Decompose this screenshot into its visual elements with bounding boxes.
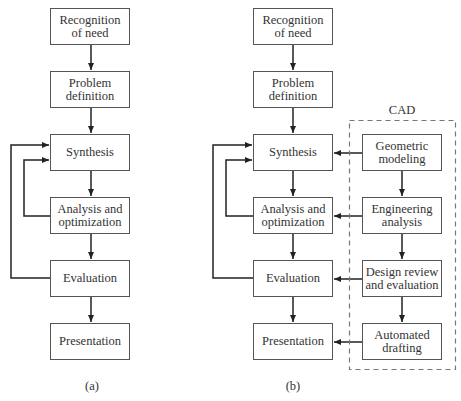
feedback-a-evaluation-synthesis	[11, 145, 50, 278]
feedback-b-evaluation-synthesis	[213, 145, 253, 278]
box-b-recognition: Recognition of need	[253, 8, 333, 45]
box-a-problem: Problem definition	[50, 71, 130, 108]
box-cad-geometric: Geometric modeling	[362, 134, 442, 171]
box-b-synthesis: Synthesis	[253, 134, 333, 171]
cad-group-label: CAD	[377, 103, 427, 118]
box-b-problem: Problem definition	[253, 71, 333, 108]
feedback-b-analysis-synthesis	[226, 160, 253, 216]
box-a-evaluation: Evaluation	[50, 260, 130, 297]
box-a-analysis: Analysis and optimization	[50, 197, 130, 234]
box-cad-engineering: Engineering analysis	[362, 197, 442, 234]
box-a-synthesis: Synthesis	[50, 134, 130, 171]
feedback-a-analysis-synthesis	[24, 160, 50, 216]
box-a-recognition: Recognition of need	[50, 8, 130, 45]
box-cad-drafting: Automated drafting	[362, 323, 442, 360]
box-b-analysis: Analysis and optimization	[253, 197, 333, 234]
box-b-presentation: Presentation	[253, 323, 333, 360]
caption-b: (b)	[273, 379, 313, 394]
caption-a: (a)	[72, 379, 112, 394]
box-b-evaluation: Evaluation	[253, 260, 333, 297]
box-cad-design-review: Design review and evaluation	[362, 260, 442, 297]
box-a-presentation: Presentation	[50, 323, 130, 360]
